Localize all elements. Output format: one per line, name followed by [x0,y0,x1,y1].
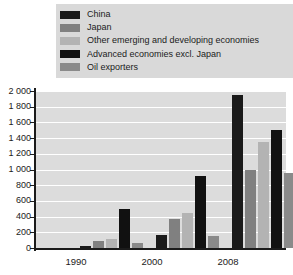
y-axis-tick-label: 1 600 [1,118,31,127]
legend-swatch-icon [60,24,80,32]
legend-swatch-icon [60,50,80,58]
bar [271,130,282,248]
bar [232,95,243,248]
bar [169,219,180,248]
y-axis-tick-label: 400 [1,212,31,221]
y-axis-tick-label: 600 [1,196,31,205]
bar-chart: ChinaJapanOther emerging and developing … [0,0,293,275]
y-axis-tick-label: 800 [1,181,31,190]
chart-legend: ChinaJapanOther emerging and developing … [56,4,293,78]
y-axis-tick-mark [30,107,34,108]
y-axis-tick-mark [30,170,34,171]
legend-item-label: Oil exporters [87,63,138,72]
y-axis-tick-mark [30,91,34,92]
y-axis-tick-mark [30,248,34,249]
y-axis-tick-label: 0 [1,244,31,253]
y-axis-tick-label: 2 000 [1,87,31,96]
y-axis-tick-mark [30,217,34,218]
legend-item-label: Japan [87,23,112,32]
y-axis-tick-label: 1 800 [1,102,31,111]
legend-item-label: Advanced economies excl. Japan [87,50,221,59]
y-axis-tick-label: 1 400 [1,134,31,143]
y-axis-tick-mark [30,138,34,139]
legend-item: China [60,8,293,21]
y-axis-tick-mark [30,154,34,155]
legend-swatch-icon [60,63,80,71]
bar [182,213,193,248]
legend-item: Advanced economies excl. Japan [60,48,293,61]
bar [284,173,293,248]
x-axis-tick-label: 2000 [122,256,182,267]
x-axis-line [34,248,286,250]
bar-group [232,91,293,248]
bar [156,235,167,248]
y-axis-tick-label: 200 [1,228,31,237]
legend-item: Oil exporters [60,61,293,74]
legend-item-label: China [87,10,111,19]
legend-item-label: Other emerging and developing economies [87,36,259,45]
legend-swatch-icon [60,37,80,45]
y-axis-tick-mark [30,185,34,186]
bar-group [80,91,145,248]
y-axis-labels: 2 0001 8001 6001 4001 2001 0008006004002… [0,0,31,275]
bar [93,241,104,248]
bar [245,170,256,249]
y-axis-tick-mark [30,201,34,202]
x-axis-tick-label: 1990 [46,256,106,267]
legend-item: Japan [60,21,293,34]
bar [119,209,130,248]
legend-item: Other emerging and developing economies [60,34,293,47]
x-axis-tick-label: 2008 [198,256,258,267]
bar-group [156,91,221,248]
plot-area [36,91,286,248]
legend-swatch-icon [60,11,80,19]
bar [106,239,117,248]
y-axis-tick-label: 1 200 [1,149,31,158]
y-axis-tick-mark [30,122,34,123]
y-axis-tick-mark [30,232,34,233]
bar [258,142,269,248]
y-axis-tick-label: 1 000 [1,165,31,174]
bar [208,236,219,248]
bar [195,176,206,248]
